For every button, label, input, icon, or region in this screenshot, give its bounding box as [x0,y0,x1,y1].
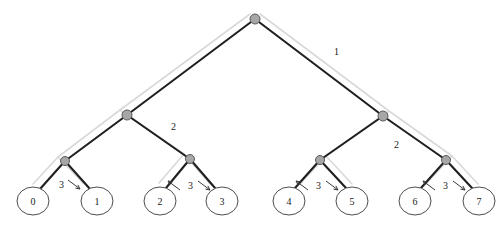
leaf-label: 7 [477,196,482,207]
leaf-node[interactable]: 2 [144,187,176,215]
leaf-node[interactable]: 4 [273,187,305,215]
diagram-canvas: 01234567 1223333 [0,0,504,228]
tree-graphic: 01234567 [0,0,504,228]
edge-arrow-icon [326,181,338,190]
leaf-label: 1 [95,196,100,207]
edge-level-label: 2 [394,140,399,150]
edge-level-label: 3 [59,180,64,190]
edge-level-label: 1 [334,47,339,57]
edge-layer [40,19,472,189]
internal-node-layer [61,14,451,166]
leaf-node[interactable]: 7 [463,187,495,215]
leaf-node[interactable]: 5 [336,187,368,215]
internal-node[interactable] [61,157,70,166]
leaf-label: 3 [220,196,225,207]
edge-arrow-icon [68,180,80,189]
tree-edge [190,159,215,188]
leaf-node[interactable]: 0 [17,187,49,215]
leaf-node[interactable]: 1 [81,187,113,215]
internal-node[interactable] [122,110,132,120]
internal-node[interactable] [186,155,195,164]
leaf-label: 5 [350,196,355,207]
internal-node[interactable] [378,111,388,121]
internal-node[interactable] [316,156,325,165]
arrow-layer [68,180,465,190]
tree-edge [320,116,383,160]
edge-shadow-layer [33,14,478,184]
leaf-label: 2 [158,196,163,207]
leaf-label: 4 [287,196,292,207]
leaf-label: 0 [31,196,36,207]
internal-node[interactable] [442,156,451,165]
edge-level-label: 2 [171,122,176,132]
tree-edge [255,19,383,116]
edge-level-label: 3 [443,181,448,191]
edge-arrow-icon [423,181,435,190]
leaf-node[interactable]: 6 [399,187,431,215]
leaf-label: 6 [413,196,418,207]
tree-edge [65,115,127,161]
leaf-node[interactable]: 3 [206,187,238,215]
edge-arrow-icon [168,181,180,190]
tree-edge [127,115,190,159]
edge-level-label: 3 [188,181,193,191]
leaf-node-layer: 01234567 [17,187,495,215]
root-node[interactable] [250,14,260,24]
edge-level-label: 3 [316,181,321,191]
tree-edge [65,161,90,189]
tree-edge [383,116,446,160]
tree-edge [127,19,255,115]
edge-arrow-icon [453,181,465,190]
